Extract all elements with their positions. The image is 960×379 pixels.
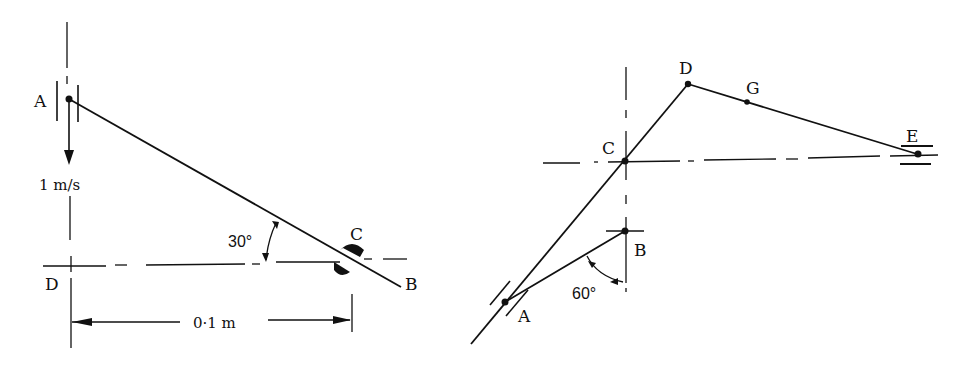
joint-d [685,81,691,87]
angle-arc-60 [587,256,623,282]
angle-label-30: 30° [228,233,252,250]
joint-c [622,158,629,165]
label-d-left: D [45,274,59,294]
label-d-right: D [679,58,693,78]
link-de [688,84,917,154]
dimension-arrowhead-right [333,316,351,324]
joint-a [66,96,73,103]
label-c-left: C [350,224,363,244]
velocity-arrowhead [64,150,74,165]
left-figure: A 1 m/s 30° C B D 0·1 m [33,22,418,348]
link-ab [69,99,401,287]
joint-b [622,228,629,235]
joint-a-right [502,299,509,306]
dimension-label: 0·1 m [193,314,236,332]
label-b-left: B [405,274,418,294]
collar-c [334,244,364,275]
label-g-right: G [746,78,760,98]
link-ab-right [505,231,625,302]
velocity-label: 1 m/s [39,176,80,194]
label-a-left: A [33,91,47,111]
right-figure: D G C E B A 60° [471,58,938,344]
mechanism-diagrams: A 1 m/s 30° C B D 0·1 m [0,0,960,379]
label-a-right: A [517,306,531,326]
dimension-arrowhead-left [72,318,92,326]
label-c-right: C [602,138,615,158]
joint-e [915,151,922,158]
angle-label-60: 60° [572,285,596,302]
label-e-right: E [906,126,918,146]
joint-g [744,99,750,105]
angle-arrowhead-bottom [262,253,269,262]
angle-arrowhead-top [272,221,279,229]
label-b-right: B [634,240,647,260]
